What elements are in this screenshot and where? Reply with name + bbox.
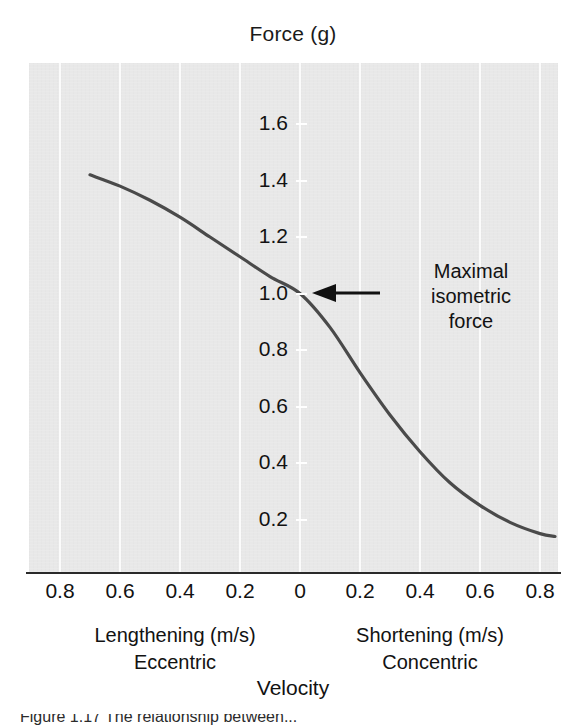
y-tick-label-6: 0.4 bbox=[212, 450, 288, 474]
y-tick-2 bbox=[296, 236, 307, 238]
y-tick-4 bbox=[296, 349, 307, 351]
x-axis-left-region-label: Lengthening (m/s) Eccentric bbox=[60, 622, 290, 676]
x-tick-label-8: 0.8 bbox=[500, 579, 580, 603]
y-tick-label-1: 1.4 bbox=[212, 168, 288, 192]
annotation-maximal-isometric-force: Maximal isometric force bbox=[386, 259, 556, 334]
y-tick-label-7: 0.2 bbox=[212, 507, 288, 531]
arrow-left-icon bbox=[310, 283, 382, 303]
y-tick-3 bbox=[296, 293, 307, 295]
eccentric-label: Eccentric bbox=[60, 649, 290, 676]
concentric-label: Concentric bbox=[310, 649, 550, 676]
force-velocity-curve bbox=[90, 175, 555, 537]
y-tick-1 bbox=[296, 180, 307, 182]
lengthening-label: Lengthening (m/s) bbox=[60, 622, 290, 649]
annotation-line-3: force bbox=[386, 309, 556, 334]
y-tick-label-5: 0.6 bbox=[212, 394, 288, 418]
y-tick-5 bbox=[296, 406, 307, 408]
y-axis-title: Force (g) bbox=[0, 22, 586, 46]
annotation-line-2: isometric bbox=[386, 284, 556, 309]
y-tick-label-2: 1.2 bbox=[212, 224, 288, 248]
y-tick-label-3: 1.0 bbox=[212, 281, 288, 305]
x-axis-right-region-label: Shortening (m/s) Concentric bbox=[310, 622, 550, 676]
force-velocity-figure: Force (g) 1.61.41.21.00.80.60.40.2 0.80.… bbox=[0, 0, 586, 728]
shortening-label: Shortening (m/s) bbox=[310, 622, 550, 649]
x-axis-line bbox=[26, 572, 561, 574]
annotation-line-1: Maximal bbox=[386, 259, 556, 284]
y-tick-label-0: 1.6 bbox=[212, 111, 288, 135]
y-tick-0 bbox=[296, 123, 307, 125]
y-tick-7 bbox=[296, 519, 307, 521]
figure-caption-text: Figure 1.17 The relationship between... bbox=[20, 714, 297, 726]
y-tick-6 bbox=[296, 462, 307, 464]
y-tick-label-4: 0.8 bbox=[212, 337, 288, 361]
figure-caption: Figure 1.17 The relationship between... bbox=[0, 714, 586, 728]
x-axis-title: Velocity bbox=[0, 676, 586, 700]
